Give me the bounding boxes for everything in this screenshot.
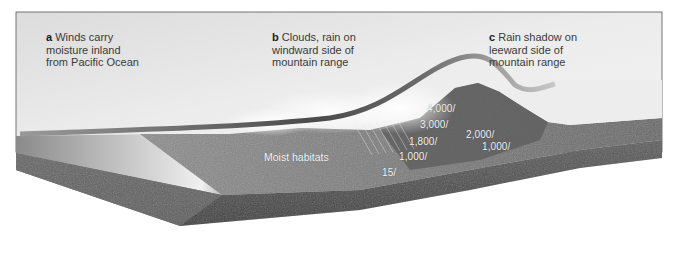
elevation-label-windward: 4,000/ [427, 103, 455, 114]
elevation-label-windward: 3,000/ [420, 119, 448, 130]
caption-b-line-2: windward side of [272, 44, 354, 56]
elevation-label-windward: 1,800/ [409, 136, 437, 147]
habitat-label: Moist habitats [264, 151, 329, 163]
caption-c: c Rain shadow on leeward side of mountai… [489, 31, 577, 69]
caption-c-letter: c [489, 31, 495, 43]
caption-b: b Clouds, rain on windward side of mount… [272, 31, 356, 69]
caption-a-line-3: from Pacific Ocean [46, 56, 139, 68]
caption-c-line-3: mountain range [489, 56, 565, 68]
caption-a-line-1: Winds carry [55, 31, 113, 43]
caption-b-letter: b [272, 31, 279, 43]
caption-a-line-2: moisture inland [46, 44, 121, 56]
caption-a: a Winds carry moisture inland from Pacif… [46, 31, 139, 69]
caption-c-line-2: leeward side of [489, 44, 563, 56]
caption-a-letter: a [46, 31, 52, 43]
caption-b-line-3: mountain range [272, 56, 348, 68]
rain-shadow-diagram: a Winds carry moisture inland from Pacif… [0, 0, 675, 253]
elevation-label-windward: 1,000/ [399, 151, 427, 162]
caption-b-line-1: Clouds, rain on [282, 31, 356, 43]
caption-c-line-1: Rain shadow on [498, 31, 577, 43]
elevation-label-windward: 15/ [382, 167, 396, 178]
elevation-label-leeward: 2,000/ [466, 129, 494, 140]
elevation-label-leeward: 1,000/ [482, 141, 510, 152]
